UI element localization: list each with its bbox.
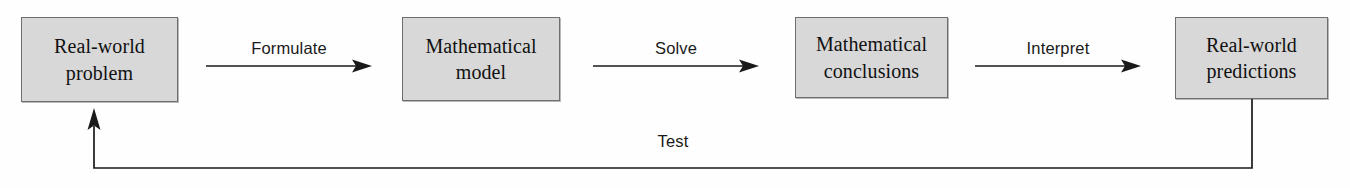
node-mathematical-conclusions: Mathematical conclusions — [795, 17, 948, 98]
arrow-up-icon — [88, 108, 101, 130]
arrow-right-icon — [593, 58, 759, 74]
modeling-process-diagram: Real-world problem Formulate Mathematica… — [0, 0, 1350, 188]
connector-solve: Solve — [593, 40, 759, 74]
node-real-world-problem: Real-world problem — [21, 17, 178, 102]
node-label-line: predictions — [1207, 58, 1297, 84]
feedback-loop-test — [0, 0, 1350, 188]
node-label-line: Real-world — [54, 33, 145, 59]
node-mathematical-model: Mathematical model — [402, 17, 560, 101]
node-label-line: problem — [66, 60, 133, 86]
node-label-line: Real-world — [1206, 32, 1297, 58]
connector-label-formulate: Formulate — [206, 40, 372, 57]
connector-interpret: Interpret — [975, 40, 1141, 74]
connector-label-test: Test — [618, 133, 728, 150]
connector-label-interpret: Interpret — [975, 40, 1141, 57]
node-label-line: conclusions — [824, 58, 920, 84]
arrow-right-icon — [206, 58, 372, 74]
node-label-line: Mathematical — [425, 33, 536, 59]
connector-formulate: Formulate — [206, 40, 372, 74]
node-label-line: model — [456, 59, 507, 85]
arrow-right-icon — [975, 58, 1141, 74]
connector-label-solve: Solve — [593, 40, 759, 57]
node-label-line: Mathematical — [816, 31, 927, 57]
node-real-world-predictions: Real-world predictions — [1175, 17, 1328, 99]
